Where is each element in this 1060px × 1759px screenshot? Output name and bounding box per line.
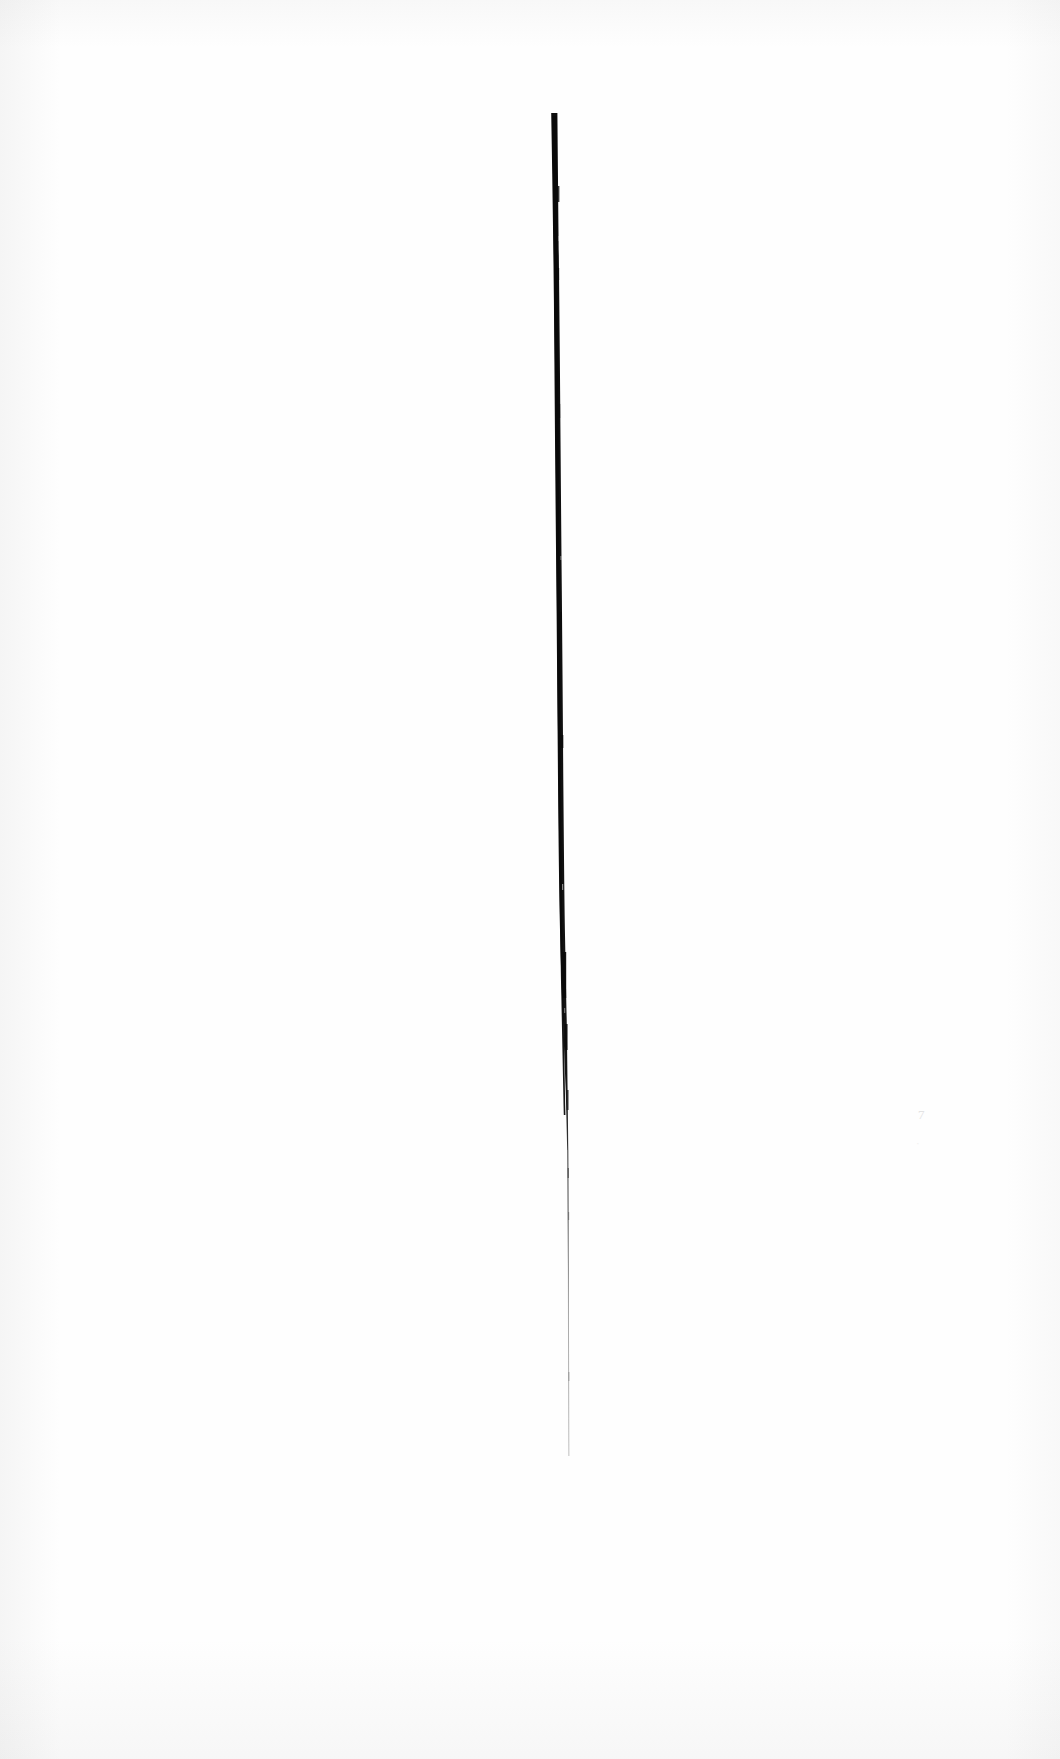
ink-blot (563, 952, 566, 998)
ink-blot (557, 186, 559, 202)
ink-skip (564, 1008, 565, 1013)
margin-annotation-smudge: · (916, 1138, 920, 1149)
ink-blot (568, 1212, 569, 1220)
artwork-canvas (0, 0, 1060, 1759)
ink-blot (565, 1024, 568, 1050)
ink-stroke-artwork (0, 0, 1060, 1759)
ink-blot (568, 1168, 569, 1178)
ink-skip (562, 884, 563, 890)
ink-blot (561, 735, 563, 748)
ink-skip (559, 236, 560, 241)
ink-blot (568, 1372, 569, 1381)
ink-blot (558, 404, 560, 418)
ink-stroke-group (551, 113, 569, 1456)
scanned-page: 7 · (0, 0, 1060, 1759)
ink-blot (557, 268, 560, 280)
ink-blot (559, 612, 562, 630)
ink-blot (567, 1090, 569, 1110)
ink-stroke-tail (568, 1150, 569, 1456)
ink-skip (560, 556, 561, 560)
margin-annotation-number: 7 (918, 1108, 925, 1121)
